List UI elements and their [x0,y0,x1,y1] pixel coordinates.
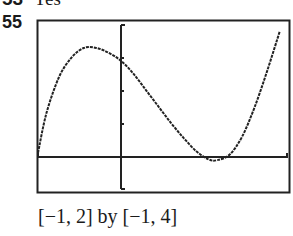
function-curve [38,32,280,161]
window-caption: [−1, 2] by [−1, 4] [38,205,177,228]
viewing-window-frame [38,21,290,193]
graph-screen [0,0,293,236]
axis-ticks [38,25,287,189]
